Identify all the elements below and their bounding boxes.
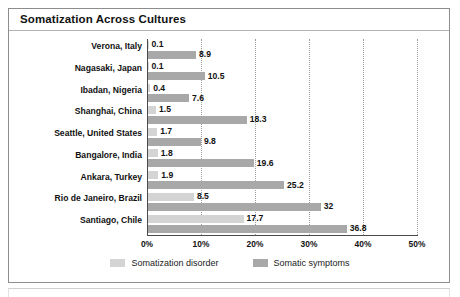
bar-value-label: 1.5 xyxy=(159,105,171,113)
bar-value-label: 8.5 xyxy=(197,192,209,200)
figure-title-band: Somatization Across Cultures xyxy=(9,9,449,31)
bar-somatic-symptoms xyxy=(148,94,189,102)
x-tick-label: 50% xyxy=(409,239,426,249)
bar-value-label: 18.3 xyxy=(250,115,267,123)
legend-swatch-icon xyxy=(253,259,268,267)
bar-value-label: 0.1 xyxy=(152,62,164,70)
x-tick-label: 20% xyxy=(247,239,264,249)
bar-somatic-symptoms xyxy=(148,159,254,167)
bar-somatic-symptoms xyxy=(148,138,201,146)
x-tick-label: 10% xyxy=(193,239,210,249)
legend-swatch-icon xyxy=(110,259,125,267)
chart-plot-area: Verona, Italy0.18.9Nagasaki, Japan0.110.… xyxy=(147,39,417,235)
category-label: Bangalore, India xyxy=(75,150,142,160)
bar-somatization-disorder xyxy=(148,106,156,114)
category-label: Ankara, Turkey xyxy=(81,172,142,182)
gridline xyxy=(417,39,418,235)
chart-row: Ibadan, Nigeria0.47.6 xyxy=(147,83,417,105)
legend-label: Somatic symptoms xyxy=(274,258,350,268)
category-label: Rio de Janeiro, Brazil xyxy=(55,193,142,203)
bar-somatic-symptoms xyxy=(148,181,284,189)
bar-somatization-disorder xyxy=(148,215,244,223)
chart-row: Shanghai, China1.518.3 xyxy=(147,104,417,126)
bar-value-label: 0.4 xyxy=(153,84,165,92)
bar-rows-group: Verona, Italy0.18.9Nagasaki, Japan0.110.… xyxy=(147,39,417,235)
bar-somatic-symptoms xyxy=(148,72,205,80)
bar-value-label: 9.8 xyxy=(204,137,216,145)
category-label: Nagasaki, Japan xyxy=(75,63,142,73)
chart-row: Nagasaki, Japan0.110.5 xyxy=(147,61,417,83)
bar-value-label: 1.8 xyxy=(161,149,173,157)
bar-somatization-disorder xyxy=(148,171,158,179)
bar-somatization-disorder xyxy=(148,149,158,157)
bar-value-label: 32 xyxy=(324,202,334,210)
x-tick-label: 0% xyxy=(141,239,153,249)
bar-somatization-disorder xyxy=(148,84,150,92)
bar-somatic-symptoms xyxy=(148,51,196,59)
chart-legend: Somatization disorderSomatic symptoms xyxy=(9,255,451,271)
bar-somatic-symptoms xyxy=(148,225,347,233)
bar-value-label: 1.9 xyxy=(161,171,173,179)
category-label: Seattle, United States xyxy=(54,128,142,138)
chart-row: Ankara, Turkey1.925.2 xyxy=(147,170,417,192)
chart-row: Verona, Italy0.18.9 xyxy=(147,39,417,61)
legend-item: Somatic symptoms xyxy=(253,258,350,268)
bar-somatization-disorder xyxy=(148,193,194,201)
x-axis-line xyxy=(147,235,418,236)
bar-value-label: 0.1 xyxy=(152,40,164,48)
bar-somatic-symptoms xyxy=(148,116,247,124)
bar-value-label: 7.6 xyxy=(192,94,204,102)
bar-value-label: 17.7 xyxy=(247,214,264,222)
bar-somatization-disorder xyxy=(148,41,149,49)
bar-value-label: 25.2 xyxy=(287,181,304,189)
x-tick-label: 40% xyxy=(355,239,372,249)
category-label: Santiago, Chile xyxy=(80,215,142,225)
page-title: Somatization Across Cultures xyxy=(20,13,186,25)
chart-row: Santiago, Chile17.736.8 xyxy=(147,213,417,235)
x-tick-label: 30% xyxy=(301,239,318,249)
bar-value-label: 1.7 xyxy=(160,127,172,135)
legend-label: Somatization disorder xyxy=(131,258,218,268)
x-axis-tick-labels: 0%10%20%30%40%50% xyxy=(147,239,417,253)
bar-somatization-disorder xyxy=(148,128,157,136)
bar-value-label: 10.5 xyxy=(208,72,225,80)
bar-value-label: 19.6 xyxy=(257,159,274,167)
lower-panel-edge xyxy=(8,288,450,297)
chart-row: Seattle, United States1.79.8 xyxy=(147,126,417,148)
page-root: Somatization Across Cultures Verona, Ita… xyxy=(0,0,460,297)
category-label: Verona, Italy xyxy=(91,41,142,51)
chart-row: Rio de Janeiro, Brazil8.532 xyxy=(147,191,417,213)
category-label: Shanghai, China xyxy=(75,106,142,116)
bar-value-label: 8.9 xyxy=(199,50,211,58)
bar-somatic-symptoms xyxy=(148,203,321,211)
chart-row: Bangalore, India1.819.6 xyxy=(147,148,417,170)
legend-item: Somatization disorder xyxy=(110,258,218,268)
category-label: Ibadan, Nigeria xyxy=(80,85,142,95)
bar-value-label: 36.8 xyxy=(350,224,367,232)
figure-container: Somatization Across Cultures Verona, Ita… xyxy=(8,8,450,283)
bar-somatization-disorder xyxy=(148,62,149,70)
